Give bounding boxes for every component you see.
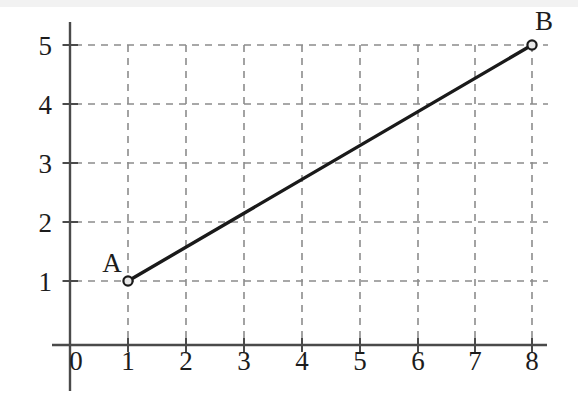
x-tick-label-5: 5	[353, 346, 367, 376]
x-tick-label-1: 1	[121, 346, 135, 376]
y-tick-label-1: 1	[39, 267, 53, 297]
point-marker-a	[123, 276, 132, 285]
y-axis-tick-labels: 1 2 3 4 5	[39, 31, 53, 297]
x-tick-label-6: 6	[411, 346, 425, 376]
y-tick-label-2: 2	[39, 208, 53, 238]
coordinate-plane: 0 1 2 3 4 5 6 7 8 1 2 3 4 5 A B	[0, 0, 578, 399]
point-label-b: B	[535, 6, 553, 36]
x-tick-label-2: 2	[179, 346, 193, 376]
x-tick-label-3: 3	[237, 346, 251, 376]
x-tick-label-4: 4	[295, 346, 309, 376]
line-graph-figure: 0 1 2 3 4 5 6 7 8 1 2 3 4 5 A B	[0, 0, 578, 399]
x-tick-label-7: 7	[468, 346, 482, 376]
y-tick-label-4: 4	[39, 90, 53, 120]
x-axis-tick-labels: 0 1 2 3 4 5 6 7 8	[69, 346, 539, 376]
x-tick-label-0: 0	[69, 346, 83, 376]
y-tick-label-5: 5	[39, 31, 53, 61]
x-tick-label-8: 8	[525, 346, 539, 376]
point-marker-b	[527, 40, 536, 49]
vertical-gridlines	[128, 45, 532, 345]
point-label-a: A	[102, 248, 122, 278]
y-tick-label-3: 3	[39, 149, 53, 179]
